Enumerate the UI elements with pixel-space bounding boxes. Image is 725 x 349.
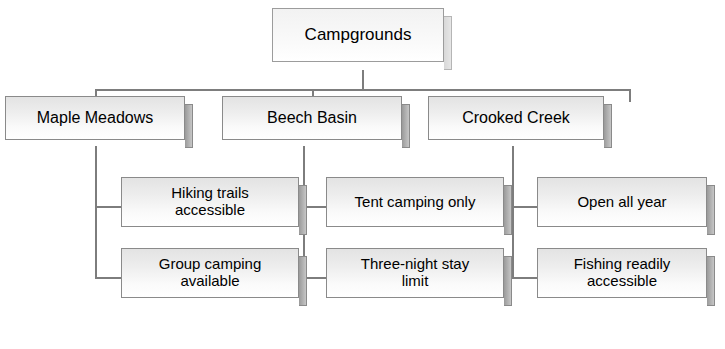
node-crooked-creek[interactable]: Crooked Creek bbox=[428, 96, 612, 148]
node-label: Open all year bbox=[573, 194, 670, 211]
box-bevel-side bbox=[707, 256, 715, 306]
node-label: Crooked Creek bbox=[458, 109, 574, 127]
connector-trunk-maple-meadows bbox=[95, 146, 97, 278]
box-bevel-side bbox=[504, 256, 512, 306]
node-tent-camping-only[interactable]: Tent camping only bbox=[326, 177, 512, 235]
connector-stub-group-camping bbox=[95, 277, 122, 279]
box-bevel-side bbox=[707, 185, 715, 235]
box-bevel-side bbox=[402, 104, 410, 148]
box-face: Fishing readily accessible bbox=[537, 248, 707, 298]
box-face: Hiking trails accessible bbox=[121, 177, 299, 227]
box-bevel-side bbox=[504, 185, 512, 235]
box-face: Crooked Creek bbox=[428, 96, 604, 140]
node-label: Maple Meadows bbox=[33, 109, 158, 127]
connector-root-stem bbox=[362, 70, 364, 90]
node-label: Three-night stay limit bbox=[357, 256, 473, 290]
node-campgrounds[interactable]: Campgrounds bbox=[272, 8, 452, 70]
node-group-camping-available[interactable]: Group camping available bbox=[121, 248, 307, 306]
box-face: Beech Basin bbox=[222, 96, 402, 140]
box-face: Tent camping only bbox=[326, 177, 504, 227]
node-beech-basin[interactable]: Beech Basin bbox=[222, 96, 410, 148]
box-face: Maple Meadows bbox=[5, 96, 185, 140]
box-bevel-side bbox=[444, 16, 452, 70]
node-hiking-trails-accessible[interactable]: Hiking trails accessible bbox=[121, 177, 307, 235]
node-label: Hiking trails accessible bbox=[167, 185, 253, 219]
connector-stub-open-all-year bbox=[512, 206, 538, 208]
connector-stub-fishing-readily bbox=[512, 277, 538, 279]
node-label: Fishing readily accessible bbox=[570, 256, 675, 290]
box-bevel-side bbox=[185, 104, 193, 148]
connector-level2-bus bbox=[95, 89, 630, 91]
node-three-night-stay-limit[interactable]: Three-night stay limit bbox=[326, 248, 512, 306]
box-face: Open all year bbox=[537, 177, 707, 227]
node-label: Campgrounds bbox=[301, 25, 416, 44]
connector-drop-crooked-creek bbox=[629, 89, 631, 102]
node-maple-meadows[interactable]: Maple Meadows bbox=[5, 96, 193, 148]
box-bevel-side bbox=[299, 256, 307, 306]
box-face: Campgrounds bbox=[272, 8, 444, 62]
box-face: Group camping available bbox=[121, 248, 299, 298]
node-label: Beech Basin bbox=[263, 109, 361, 127]
connector-stub-hiking-trails bbox=[95, 206, 122, 208]
connector-trunk-crooked-creek bbox=[512, 146, 514, 278]
box-bevel-side bbox=[299, 185, 307, 235]
node-label: Tent camping only bbox=[351, 194, 480, 211]
node-open-all-year[interactable]: Open all year bbox=[537, 177, 715, 235]
org-chart-diagram: Campgrounds Maple Meadows Beech Basin Cr… bbox=[0, 0, 725, 349]
box-face: Three-night stay limit bbox=[326, 248, 504, 298]
box-bevel-side bbox=[604, 104, 612, 148]
node-fishing-readily-accessible[interactable]: Fishing readily accessible bbox=[537, 248, 715, 306]
node-label: Group camping available bbox=[155, 256, 266, 290]
